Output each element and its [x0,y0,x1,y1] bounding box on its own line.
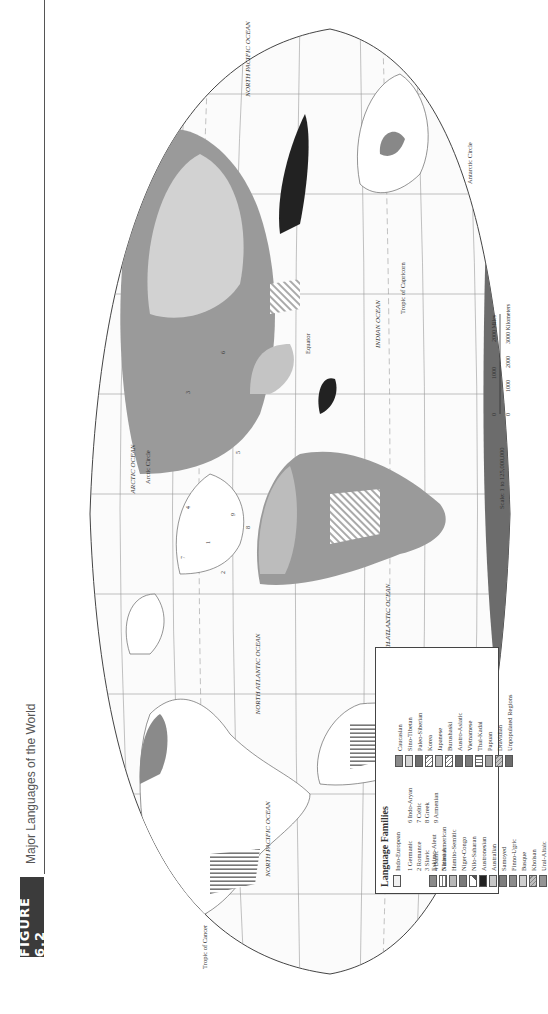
legend-item: Paleo-Siberian [414,694,424,773]
legend-label: Caucasian [396,724,403,751]
figure-title: Major Languages of the World [24,703,38,864]
legend-label: Paleo-Siberian [416,713,423,751]
legend-swatch [395,755,403,767]
legend-swatch [465,755,473,767]
swatch-indo-european [393,875,401,887]
legend-label: Native American [440,827,447,871]
legend-swatch [509,875,517,887]
legend-swatch [485,755,493,767]
indo-european-subgroups-right: 6 Indo-Aryan 7 Celtic 8 Greek 9 Armenian [406,788,440,823]
legend-label: Burushaski [446,722,453,751]
svg-text:3: 3 [185,391,191,394]
legend-label: Papuan [486,732,493,751]
legend-item: Austro-Asiatic [454,694,464,773]
legend-item: Eskimo-Aleut [428,827,438,893]
label-north-pacific-west: NORTH PACIFIC OCEAN [244,21,252,98]
svg-text:2: 2 [220,571,226,574]
legend-label: Unpopulated Regions [506,694,513,751]
label-equator: Equator [304,333,311,354]
legend-item: Basque [518,827,528,893]
legend-label: Basque [520,852,527,871]
svg-text:6: 6 [220,351,226,354]
legend-swatch [435,755,443,767]
svg-text:3000 Kilometers: 3000 Kilometers [505,303,511,344]
legend-item: Native American [438,827,448,893]
legend-swatch [479,875,487,887]
svg-text:1000: 1000 [505,380,511,392]
legend-label: Thai-Kadai [476,721,483,751]
legend-swatch [455,755,463,767]
svg-text:2000 Miles: 2000 Miles [491,314,497,342]
legend-label: Japanese [436,728,443,751]
svg-text:8: 8 [245,526,251,529]
legend-item: Sino-Tibetan [404,694,414,773]
legend-swatch [425,755,433,767]
label-antarctic-circle: Antarctic Circle [466,142,473,184]
legend-label: Dravidian [496,725,503,751]
legend-swatch [539,875,547,887]
legend-item: Vietnamese [464,694,474,773]
svg-text:4: 4 [185,506,191,509]
legend-swatch [495,755,503,767]
legend-label: Vietnamese [466,721,473,751]
legend-label: Niger-Congo [460,837,467,871]
legend-item: Thai-Kadai [474,694,484,773]
legend-swatch [529,875,537,887]
legend-swatch [445,755,453,767]
legend-swatch [469,875,477,887]
legend-item: Samoyed [498,827,508,893]
legend-item: Niger-Congo [458,827,468,893]
legend-item: Australian [488,827,498,893]
legend-label: Austronesian [480,837,487,871]
scale-text: Scale: 1 to 125,000,000 [498,447,505,509]
legend-item: Nilo-Saharan [468,827,478,893]
svg-text:2000: 2000 [505,356,511,368]
svg-text:9: 9 [230,513,236,516]
label-tropic-capricorn: Tropic of Capricorn [399,261,406,314]
legend-item: Burushaski [444,694,454,773]
legend-swatch [405,755,413,767]
legend-label: Eskimo-Aleut [430,835,437,871]
label-north-atlantic: NORTH ATLANTIC OCEAN [254,633,262,715]
legend: Language Families Indo-European 1 German… [375,647,499,894]
svg-text:0: 0 [505,413,511,416]
legend-item: Papuan [484,694,494,773]
svg-text:1: 1 [205,541,211,544]
svg-text:7: 7 [180,556,186,559]
legend-label: Sino-Tibetan [406,717,413,751]
label-tropic-cancer: Tropic of Cancer [201,924,208,969]
legend-item: Caucasian [394,694,404,773]
label-indian: INDIAN OCEAN [374,300,382,349]
svg-text:0: 0 [491,413,497,416]
label-arctic: ARCTIC OCEAN [129,444,137,494]
legend-item: Dravidian [494,694,504,773]
legend-item: Hamito-Semitic [448,827,458,893]
legend-item: Unpopulated Regions [504,694,514,773]
legend-swatch [489,875,497,887]
legend-label: Nilo-Saharan [470,836,477,871]
legend-label: Khoisan [530,849,537,871]
legend-item: Khoisan [528,827,538,893]
svg-text:1000: 1000 [491,367,497,379]
legend-swatch [499,875,507,887]
legend-item: Ural-Altaic [538,827,548,893]
legend-item: Japanese [434,694,444,773]
label-north-pacific-east: NORTH PACIFIC OCEAN [264,801,272,878]
legend-label: Australian [490,844,497,871]
legend-label: Ural-Altaic [540,841,547,871]
legend-label: Korea [426,735,433,751]
legend-label: Samoyed [500,847,507,871]
legend-item: Korea [424,694,434,773]
legend-label: Finno-Ugric [510,839,517,871]
legend-title: Language Families [379,648,390,887]
legend-column-1: Eskimo-AleutNative AmericanHamito-Semiti… [428,827,548,893]
legend-label: Hamito-Semitic [450,829,457,871]
svg-text:5: 5 [235,451,241,454]
figure-header: FIGURE 6.2 Major Languages of the World [0,0,60,1014]
legend-swatch [429,875,437,887]
legend-swatch [505,755,513,767]
legend-item: Finno-Ugric [508,827,518,893]
world-language-map: NORTH PACIFIC OCEAN NORTH PACIFIC OCEAN … [60,0,521,1014]
label-arctic-circle: Arctic Circle [144,450,151,484]
